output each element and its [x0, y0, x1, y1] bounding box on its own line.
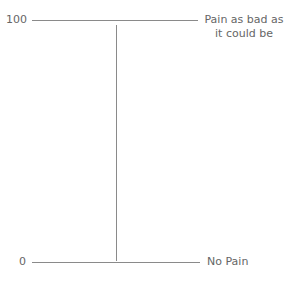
top-anchor-label: Pain as bad as it could be	[199, 13, 289, 41]
bottom-anchor-label: No Pain	[207, 255, 248, 269]
top-value-label: 100	[6, 13, 27, 27]
bottom-value-label: 0	[19, 255, 26, 269]
top-anchor-line1: Pain as bad as	[199, 13, 289, 27]
top-line	[32, 20, 198, 21]
vertical-scale-line	[116, 25, 117, 261]
bottom-line	[32, 262, 200, 263]
top-anchor-line2: it could be	[199, 27, 289, 41]
